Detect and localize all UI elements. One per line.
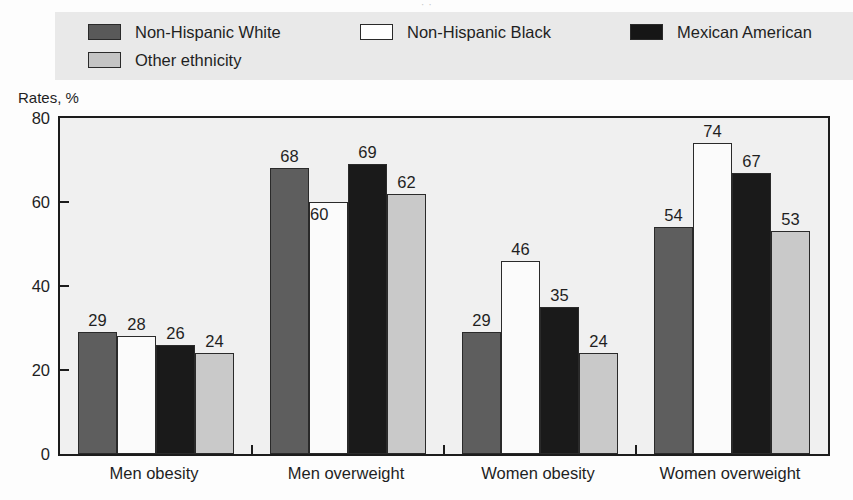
- bar-value-label: 60: [310, 205, 349, 224]
- legend-item-non-hispanic-white[interactable]: Non-Hispanic White: [88, 18, 360, 46]
- legend-label: Non-Hispanic Black: [407, 23, 551, 42]
- bar-3-1[interactable]: [462, 332, 501, 454]
- x-category-label: Women overweight: [660, 464, 801, 483]
- x-category-label: Women obesity: [481, 464, 594, 483]
- legend-item-non-hispanic-black[interactable]: Non-Hispanic Black: [360, 18, 630, 46]
- light-gray-swatch-icon: [88, 52, 121, 68]
- y-tick-mark: [60, 369, 69, 371]
- legend-row-1: Non-Hispanic White Non-Hispanic Black Me…: [55, 18, 853, 46]
- bar-value-label: 24: [573, 332, 624, 351]
- bar-value-label: 35: [534, 286, 585, 305]
- y-tick-label: 20: [8, 361, 50, 380]
- legend-row-2: Other ethnicity: [55, 46, 853, 74]
- legend-item-mexican-american[interactable]: Mexican American: [630, 18, 840, 46]
- x-category-label: Men obesity: [110, 464, 199, 483]
- plot-area: 29282624686069622946352454746753: [58, 116, 830, 456]
- bar-1-1[interactable]: [78, 332, 117, 454]
- bar-4-4[interactable]: [771, 231, 810, 454]
- bar-value-label: 62: [381, 173, 432, 192]
- x-category-label: Men overweight: [288, 464, 404, 483]
- bar-2-4[interactable]: [387, 194, 426, 454]
- chart-figure: · · Non-Hispanic White Non-Hispanic Blac…: [0, 0, 853, 500]
- legend-label: Non-Hispanic White: [135, 23, 281, 42]
- bar-4-2[interactable]: [693, 143, 732, 454]
- bar-1-4[interactable]: [195, 353, 234, 454]
- black-swatch-icon: [630, 24, 663, 40]
- legend-label: Other ethnicity: [135, 51, 241, 70]
- bar-value-label: 24: [189, 332, 240, 351]
- bar-3-3[interactable]: [540, 307, 579, 454]
- bar-3-4[interactable]: [579, 353, 618, 454]
- title-remnant: · ·: [0, 0, 853, 9]
- y-tick-label: 0: [8, 445, 50, 464]
- y-axis-title: Rates, %: [18, 89, 79, 106]
- bar-2-2[interactable]: [309, 202, 348, 454]
- bar-value-label: 67: [726, 152, 777, 171]
- bar-2-3[interactable]: [348, 164, 387, 454]
- white-swatch-icon: [360, 24, 393, 40]
- y-tick-mark: [60, 201, 69, 203]
- legend-label: Mexican American: [677, 23, 812, 42]
- bar-2-1[interactable]: [270, 168, 309, 454]
- bar-value-label: 29: [456, 311, 507, 330]
- y-axis-labels: 020406080: [0, 116, 50, 456]
- chart-legend: Non-Hispanic White Non-Hispanic Black Me…: [55, 12, 853, 80]
- y-tick-label: 40: [8, 277, 50, 296]
- bar-value-label: 69: [342, 143, 393, 162]
- y-tick-mark: [60, 285, 69, 287]
- bar-value-label: 46: [495, 240, 546, 259]
- x-axis-labels: Men obesityMen overweightWomen obesityWo…: [58, 464, 830, 494]
- bar-value-label: 68: [264, 147, 315, 166]
- bar-value-label: 54: [648, 206, 699, 225]
- x-tick-mark: [251, 445, 253, 454]
- bar-1-2[interactable]: [117, 336, 156, 454]
- y-tick-label: 80: [8, 109, 50, 128]
- plot-inner: 29282624686069622946352454746753: [60, 118, 828, 454]
- x-tick-mark: [635, 445, 637, 454]
- bar-1-3[interactable]: [156, 345, 195, 454]
- y-tick-label: 60: [8, 193, 50, 212]
- bar-value-label: 53: [765, 210, 816, 229]
- x-tick-mark: [443, 445, 445, 454]
- dark-gray-swatch-icon: [88, 24, 121, 40]
- bar-value-label: 74: [687, 122, 738, 141]
- legend-item-other-ethnicity[interactable]: Other ethnicity: [88, 46, 241, 74]
- bar-4-1[interactable]: [654, 227, 693, 454]
